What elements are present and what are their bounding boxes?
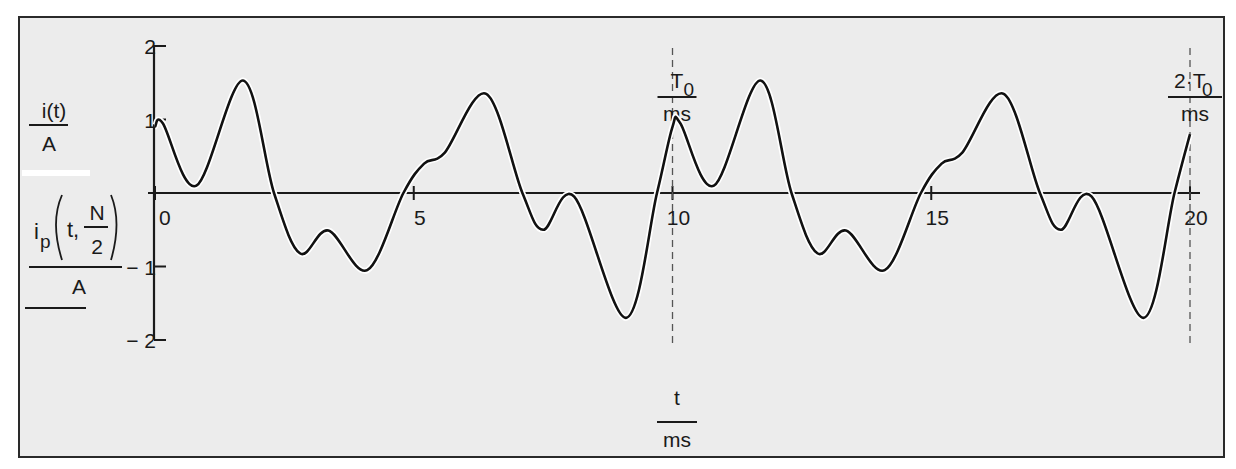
line-chart: 21− 1− 2 05101520 T0ms2·T0ms i(t) A i p … bbox=[0, 0, 1236, 469]
x-tick-label: 10 bbox=[667, 206, 690, 229]
y-label-ip-frac-num: N bbox=[89, 201, 104, 224]
paren-left bbox=[56, 195, 62, 260]
y-label-ip-sub: p bbox=[40, 231, 51, 252]
white-mark bbox=[22, 170, 90, 176]
x-label-num: t bbox=[674, 386, 680, 409]
x-tick-label: 0 bbox=[159, 206, 171, 229]
y-label-ip-arg: t, bbox=[67, 217, 79, 242]
y-tick-label: − 1 bbox=[126, 256, 156, 279]
paren-right bbox=[111, 195, 117, 260]
y-label-i-den: A bbox=[42, 132, 56, 155]
y-label-ip-den: A bbox=[72, 275, 86, 298]
marker-den: ms bbox=[1181, 102, 1209, 125]
marker-num: 2·T bbox=[1174, 69, 1206, 92]
marker-num: T bbox=[671, 69, 684, 92]
period-markers: T0ms2·T0ms bbox=[658, 48, 1223, 345]
y-label-ip-frac-den: 2 bbox=[91, 235, 103, 258]
x-tick-label: 20 bbox=[1184, 206, 1207, 229]
y-tick-label: 2 bbox=[144, 35, 156, 58]
y-tick-label: − 2 bbox=[126, 329, 156, 352]
y-label-i-num: i(t) bbox=[42, 99, 67, 122]
x-label: t ms bbox=[657, 386, 697, 451]
x-tick-label: 15 bbox=[926, 206, 949, 229]
y-label-ip: i p t, N 2 A bbox=[25, 195, 122, 308]
x-tick-label: 5 bbox=[414, 206, 426, 229]
y-label-i: i(t) A bbox=[29, 99, 68, 155]
y-label-ip-func: i bbox=[34, 219, 39, 244]
x-label-den: ms bbox=[663, 428, 691, 451]
marker-label: 2·T0ms bbox=[1168, 69, 1222, 125]
